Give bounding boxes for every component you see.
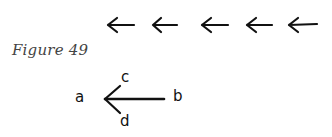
arrow-upper-barb xyxy=(105,86,120,99)
label-a: a xyxy=(75,90,84,105)
label-c: c xyxy=(121,70,129,85)
left-arrow-icon xyxy=(202,18,228,32)
left-arrow-icon xyxy=(289,18,317,32)
arrows-canvas xyxy=(0,0,332,137)
left-arrow-icon xyxy=(153,18,177,32)
left-arrow-icon xyxy=(247,18,272,32)
left-arrow-icon xyxy=(108,18,134,32)
figure-49: Figure 49 a b c d xyxy=(0,0,332,137)
diagram-arrow-icon xyxy=(105,86,164,113)
figure-caption: Figure 49 xyxy=(12,41,88,59)
label-d: d xyxy=(120,114,130,129)
arrow-lower-barb xyxy=(105,99,120,113)
label-b: b xyxy=(173,89,183,104)
